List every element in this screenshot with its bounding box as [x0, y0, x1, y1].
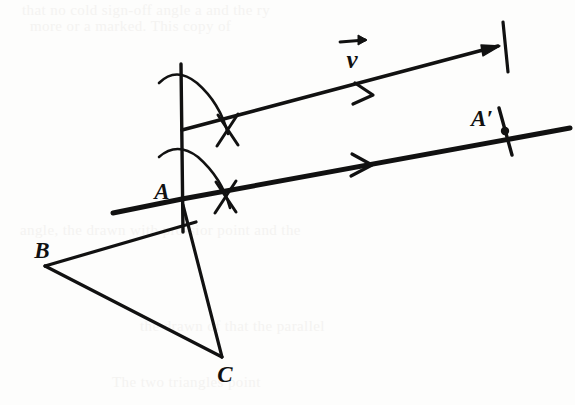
a-prime-point-marker	[501, 127, 509, 135]
label-point-c: C	[217, 362, 233, 387]
label-point-b: B	[33, 238, 49, 263]
figure-page: that no cold sign-off angle a and the ry…	[0, 0, 575, 405]
geometry-figure: A A′ B C ν	[0, 0, 575, 405]
label-vector-v: ν	[346, 46, 358, 73]
vector-v-overbar-arrowhead	[358, 35, 367, 45]
triangle-side-ba-extended	[45, 222, 196, 266]
upper-arc	[159, 75, 228, 135]
triangle-side-ac	[183, 205, 222, 357]
vector-v-direction-chevron	[353, 83, 373, 104]
label-point-a-prime: A′	[469, 106, 493, 131]
vector-v-arrowhead	[481, 45, 500, 56]
congruence-tick-lower	[215, 181, 236, 213]
vector-v-terminal-tick	[503, 22, 508, 72]
vector-v-line	[182, 46, 498, 130]
triangle-side-bc	[45, 266, 222, 357]
label-point-a: A	[152, 179, 169, 204]
